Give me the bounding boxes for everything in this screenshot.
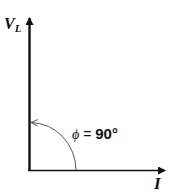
phase-angle-arc	[31, 123, 76, 171]
phasor-diagram	[0, 0, 172, 196]
angle-value: 90°	[95, 125, 118, 142]
vl-axis-label: VL	[4, 15, 21, 34]
current-axis-label: I	[154, 174, 161, 194]
phase-angle-label: ϕ = 90°	[72, 125, 118, 143]
